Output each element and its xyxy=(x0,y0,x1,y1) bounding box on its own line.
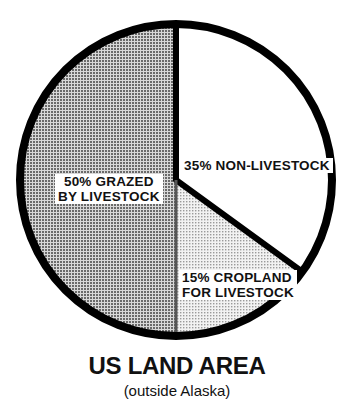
label-cropland-line1: 15% CROPLAND xyxy=(182,270,294,285)
chart-subtitle: (outside Alaska) xyxy=(0,382,354,399)
label-non-livestock: 35% NON-LIVESTOCK xyxy=(181,158,333,173)
label-cropland-line2: FOR LIVESTOCK xyxy=(182,285,294,300)
chart-title: US LAND AREA xyxy=(0,352,354,380)
label-grazed-line2: BY LIVESTOCK xyxy=(58,189,160,204)
label-cropland: 15% CROPLAND FOR LIVESTOCK xyxy=(179,270,297,300)
label-grazed: 50% GRAZED BY LIVESTOCK xyxy=(55,174,163,204)
label-grazed-line1: 50% GRAZED xyxy=(58,174,160,189)
